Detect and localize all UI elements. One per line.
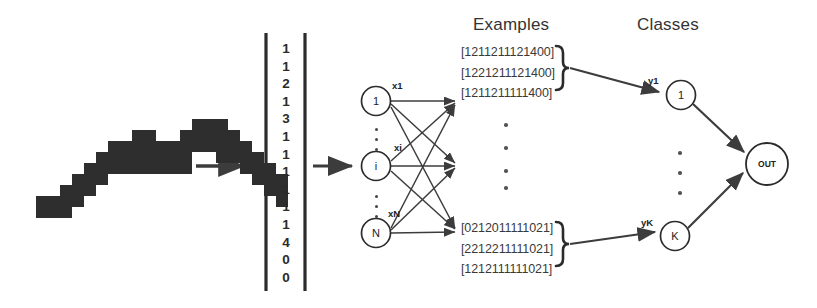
feature-vector-digit: 1 <box>278 200 294 214</box>
class-node-K-label: K <box>668 231 682 242</box>
input-edge-label-xN: xN <box>388 209 400 219</box>
feature-vector-digit: 1 <box>278 60 294 74</box>
input-edge-label-x1: x1 <box>392 81 403 91</box>
output-node-label: OUT <box>753 160 781 169</box>
input-node-i-label: i <box>369 161 383 172</box>
class-node-1-label: 1 <box>674 90 688 101</box>
feature-vector-digit: 0 <box>278 271 294 285</box>
class-edge-label-yK: yK <box>641 218 653 228</box>
feature-vector-digit: 1 <box>278 218 294 232</box>
example-line: [0212011111021] <box>461 222 553 235</box>
feature-vector-digit: 3 <box>278 112 294 126</box>
input-bitmap-image <box>0 0 817 308</box>
input-node-N-label: N <box>369 228 383 239</box>
example-line: [2212211111021] <box>461 243 553 256</box>
feature-vector-digit: 2 <box>278 77 294 91</box>
feature-vector-digit: 4 <box>278 236 294 250</box>
input-edge-label-xi: xi <box>394 143 402 153</box>
neural-network-pipeline-diagram: Examples Classes 11213111111400 1 i N x1… <box>0 0 817 308</box>
feature-vector-digit: 1 <box>278 42 294 56</box>
examples-heading: Examples <box>473 16 549 33</box>
example-line: [1221211121400] <box>461 67 555 80</box>
feature-vector-digit: 1 <box>278 148 294 162</box>
feature-vector-digit: 1 <box>278 183 294 197</box>
classes-heading: Classes <box>637 16 699 33</box>
feature-vector-digit: 1 <box>278 95 294 109</box>
feature-vector-digit: 1 <box>278 130 294 144</box>
class-edge-label-y1: y1 <box>648 76 659 86</box>
example-line: [1211211121400] <box>461 46 554 59</box>
example-line: [1211211111400] <box>461 87 552 100</box>
example-line: [1212111111021] <box>461 263 552 276</box>
input-node-1-label: 1 <box>369 96 383 107</box>
feature-vector-digit: 1 <box>278 165 294 179</box>
feature-vector-digit: 0 <box>278 253 294 267</box>
